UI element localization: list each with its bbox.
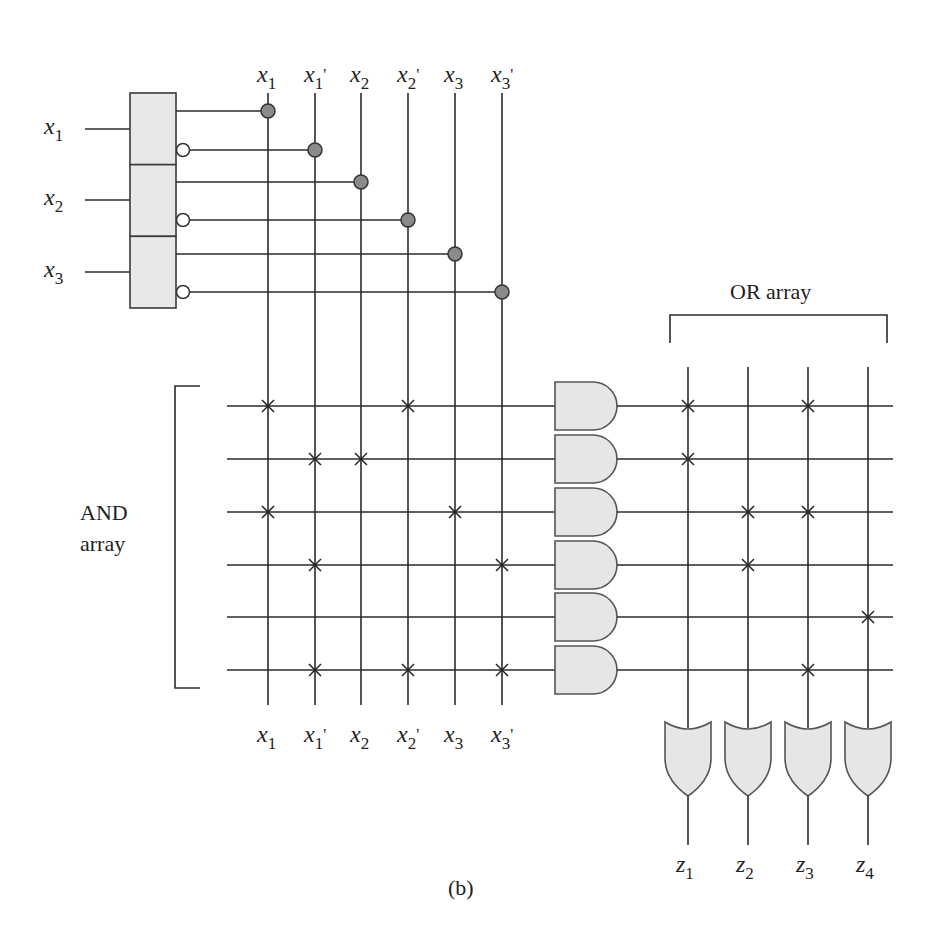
top-label-column-x3-complement: x3' — [490, 61, 513, 93]
input-label-x3: x3 — [43, 256, 63, 288]
bottom-label-column-x1-complement: x1' — [303, 721, 326, 753]
top-label-column-x1-complement: x1' — [303, 61, 326, 93]
labels: AND array OR array (b) — [80, 279, 811, 900]
top-label-column-x1: x1 — [256, 61, 276, 93]
junction-dot-icon — [308, 143, 322, 157]
and-array-label-line2: array — [80, 531, 125, 556]
and-array-bracket — [175, 386, 200, 688]
pla-diagram: x1x2x3 x1x1x1'x1'x2x2x2'x2'x3x3x3'x3' z1… — [0, 0, 942, 949]
output-label-z4: z4 — [855, 851, 874, 883]
and-gate-1 — [555, 382, 617, 430]
input-buffer-block — [130, 93, 176, 308]
or-array: z1z2z3z4 — [617, 315, 893, 883]
top-label-column-x2: x2 — [349, 61, 369, 93]
or-array-bracket — [670, 315, 887, 343]
literal-columns: x1x1x1'x1'x2x2x2'x2'x3x3x3'x3' — [176, 61, 513, 753]
and-gate-2 — [555, 435, 617, 483]
bottom-label-column-x1: x1 — [256, 721, 276, 753]
bottom-label-column-x3: x3 — [443, 721, 463, 753]
or-gate-z3 — [785, 722, 831, 796]
bottom-label-column-x2-complement: x2' — [396, 721, 419, 753]
output-label-z3: z3 — [795, 851, 814, 883]
or-array-label: OR array — [730, 279, 811, 304]
input-label-x1: x1 — [43, 113, 63, 145]
top-label-column-x2-complement: x2' — [396, 61, 419, 93]
output-label-z2: z2 — [735, 851, 754, 883]
or-gate-z1 — [665, 722, 711, 796]
input-label-x2: x2 — [43, 184, 63, 216]
junction-dot-icon — [401, 213, 415, 227]
input-buffer-x2 — [130, 165, 176, 237]
and-array-label-line1: AND — [80, 500, 128, 525]
bottom-label-column-x2: x2 — [349, 721, 369, 753]
junction-dot-icon — [448, 247, 462, 261]
or-gate-z2 — [725, 722, 771, 796]
bottom-label-column-x3-complement: x3' — [490, 721, 513, 753]
and-gate-3 — [555, 488, 617, 536]
output-label-z1: z1 — [675, 851, 694, 883]
and-gate-6 — [555, 646, 617, 694]
input-buffer-x1 — [130, 93, 176, 165]
and-gate-5 — [555, 593, 617, 641]
junction-dot-icon — [261, 104, 275, 118]
input-section: x1x2x3 — [43, 113, 130, 288]
figure-caption: (b) — [448, 875, 474, 900]
junction-dot-icon — [354, 175, 368, 189]
top-label-column-x3: x3 — [443, 61, 463, 93]
inverter-bubble-icon — [177, 286, 190, 299]
junction-dot-icon — [495, 285, 509, 299]
and-array — [175, 386, 555, 688]
or-gate-z4 — [845, 722, 891, 796]
inverter-bubble-icon — [177, 144, 190, 157]
inverter-bubble-icon — [177, 214, 190, 227]
input-buffer-x3 — [130, 236, 176, 308]
and-gate-4 — [555, 541, 617, 589]
and-gates — [555, 382, 617, 694]
